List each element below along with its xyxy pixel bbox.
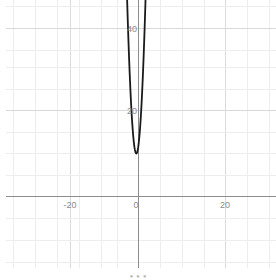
y-tick-label-40: 40 xyxy=(127,24,137,34)
grid-vertical-minor xyxy=(14,0,270,268)
grid-vertical-major xyxy=(71,0,226,268)
x-tick-label--20: -20 xyxy=(63,200,76,210)
y-tick-label-20: 20 xyxy=(127,106,137,116)
x-tick-label-20: 20 xyxy=(220,200,230,210)
figure-caption: • • • xyxy=(0,270,276,280)
grid-horizontal-minor xyxy=(6,7,276,263)
graph-figure: -20 0 20 20 40 • • • xyxy=(0,0,276,280)
plot-area xyxy=(0,0,276,280)
x-tick-label-0: 0 xyxy=(133,200,138,210)
